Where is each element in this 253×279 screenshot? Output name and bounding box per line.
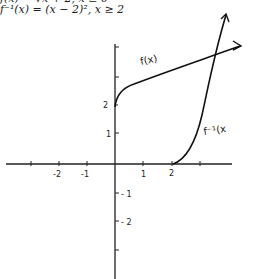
- y-tick-label: 2: [103, 101, 108, 110]
- f-label: f(x): [139, 53, 158, 67]
- y-tick-label: 1: [106, 130, 111, 139]
- y-tick-label: - 1: [121, 190, 132, 199]
- f-inverse-curve: [173, 15, 226, 164]
- x-tick-label: 1: [141, 170, 146, 179]
- x-tick-label: 2: [169, 169, 174, 178]
- y-tick-label: - 2: [121, 218, 132, 227]
- f-inverse-label: f⁻¹(x: [203, 123, 227, 137]
- graph: -2 -1 1 2 2 1 - 1 - 2 f(x) f⁻¹(x: [0, 0, 253, 279]
- x-tick-label: -2: [53, 170, 61, 179]
- f-curve: [115, 46, 240, 107]
- f-arrow-icon: [233, 41, 241, 50]
- x-tick-label: -1: [81, 170, 89, 179]
